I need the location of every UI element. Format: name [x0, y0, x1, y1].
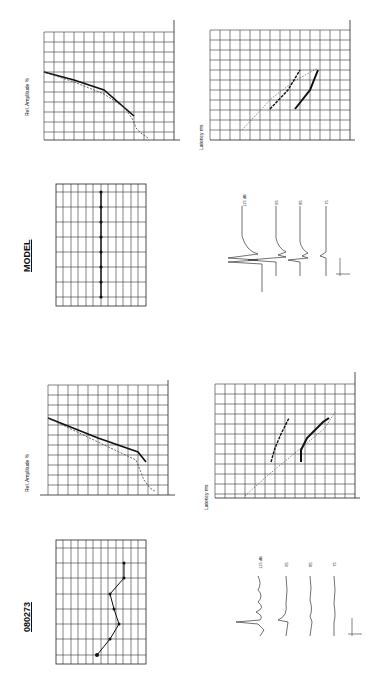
latency-axis-label: Latency ms [198, 124, 204, 150]
waveform-label-115: 115 dB [242, 194, 247, 206]
waveform-label-95: 95 [284, 562, 289, 566]
amplitude-axis-label: Rel. Amplitude % [24, 78, 30, 116]
subject-title: 080273 [22, 602, 32, 632]
waveform-label-75: 75 [332, 562, 337, 566]
latency-axis-label: Latency ms [203, 484, 209, 510]
waveform-label-85: 85 [308, 562, 313, 566]
model-title: MODEL [22, 240, 32, 273]
waveform-label-85: 85 [298, 200, 303, 204]
subject-amplitude-chart: Rel. Amplitude % [40, 380, 180, 510]
model-waveforms: 115 dB 95 85 75 [228, 196, 366, 292]
subject-latency-chart: Latency ms [205, 372, 365, 512]
subject-waveforms: 115 dB 95 85 75 [228, 560, 366, 640]
waveform-label-75: 75 [324, 200, 329, 204]
waveform-label-115: 115 dB [258, 556, 263, 568]
model-audiogram [52, 182, 152, 312]
subject-audiogram [52, 538, 152, 670]
amplitude-axis-label: Rel. Amplitude % [24, 454, 30, 492]
model-amplitude-chart: Rel. Amplitude % [30, 20, 180, 155]
waveform-label-95: 95 [274, 200, 279, 204]
model-latency-chart: Latency ms [200, 20, 360, 155]
